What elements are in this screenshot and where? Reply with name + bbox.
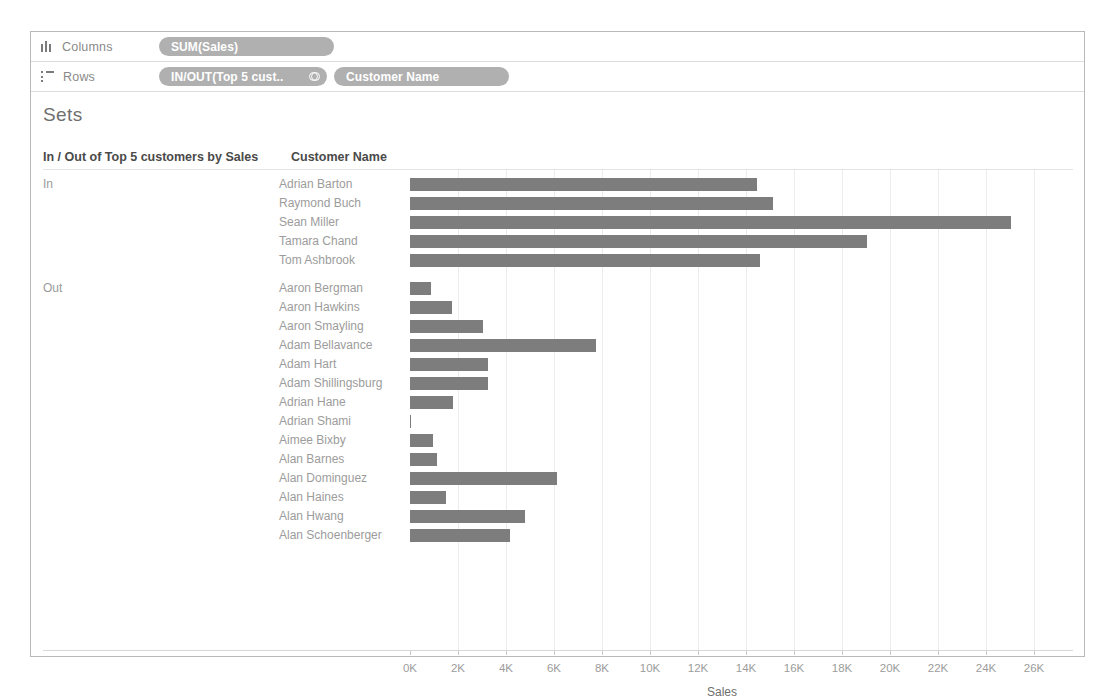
x-tick-label: 2K xyxy=(451,662,465,674)
bar-mark[interactable] xyxy=(410,339,596,352)
tick-mark xyxy=(794,651,795,655)
table-row[interactable]: Alan Schoenberger xyxy=(31,526,1084,545)
bar-mark[interactable] xyxy=(410,254,760,267)
table-row[interactable]: Aaron Smayling xyxy=(31,317,1084,336)
pill-customer-name[interactable]: Customer Name xyxy=(334,67,509,86)
bar-mark[interactable] xyxy=(410,396,453,409)
row-label: Aaron Hawkins xyxy=(279,300,360,314)
table-row[interactable]: Alan Haines xyxy=(31,488,1084,507)
bar-mark[interactable] xyxy=(410,320,483,333)
row-label: Adrian Barton xyxy=(279,177,352,191)
table-row[interactable]: Raymond Buch xyxy=(31,194,1084,213)
columns-shelf[interactable]: Columns SUM(Sales) xyxy=(31,32,1084,62)
plot-clip: InOut Adrian BartonRaymond BuchSean Mill… xyxy=(31,170,1084,651)
table-row[interactable]: Aimee Bixby xyxy=(31,431,1084,450)
row-label: Sean Miller xyxy=(279,215,339,229)
bar-mark[interactable] xyxy=(410,301,452,314)
table-row[interactable]: Alan Dominguez xyxy=(31,469,1084,488)
tick-mark xyxy=(650,651,651,655)
pill-in-out-set-text: IN/OUT(Top 5 cust.. xyxy=(171,70,283,84)
table-row[interactable]: Adam Bellavance xyxy=(31,336,1084,355)
row-label: Raymond Buch xyxy=(279,196,361,210)
axis-clip: 0K2K4K6K8K10K12K14K16K18K20K22K24K26K Sa… xyxy=(31,651,1084,700)
row-label: Alan Schoenberger xyxy=(279,528,382,542)
tick-mark xyxy=(1034,651,1035,655)
x-tick-label: 6K xyxy=(547,662,561,674)
x-tick-label: 26K xyxy=(1024,662,1044,674)
table-row[interactable]: Adrian Hane xyxy=(31,393,1084,412)
x-tick-label: 20K xyxy=(880,662,900,674)
table-row[interactable]: Aaron Hawkins xyxy=(31,298,1084,317)
bar-mark[interactable] xyxy=(410,216,1011,229)
tick-mark xyxy=(890,651,891,655)
rows-shelf-label: Rows xyxy=(31,70,159,84)
x-tick-label: 24K xyxy=(976,662,996,674)
bar-mark[interactable] xyxy=(410,472,557,485)
row-label: Adam Shillingsburg xyxy=(279,376,382,390)
columns-icon xyxy=(41,41,53,52)
x-tick-label: 4K xyxy=(499,662,513,674)
pill-sum-sales[interactable]: SUM(Sales) xyxy=(159,37,334,56)
header-customer-name: Customer Name xyxy=(291,150,387,164)
bar-mark[interactable] xyxy=(410,197,773,210)
x-axis-title: Sales xyxy=(707,685,737,699)
x-tick-label: 8K xyxy=(595,662,609,674)
tick-mark xyxy=(938,651,939,655)
x-tick-label: 16K xyxy=(784,662,804,674)
x-tick-label: 14K xyxy=(736,662,756,674)
row-label: Alan Hwang xyxy=(279,509,344,523)
table-row[interactable]: Adrian Shami xyxy=(31,412,1084,431)
bar-mark[interactable] xyxy=(410,282,431,295)
x-tick-label: 10K xyxy=(640,662,660,674)
table-row[interactable]: Tom Ashbrook xyxy=(31,251,1084,270)
columns-shelf-label: Columns xyxy=(31,40,159,54)
table-row[interactable]: Adam Shillingsburg xyxy=(31,374,1084,393)
row-label: Alan Barnes xyxy=(279,452,344,466)
row-label: Aaron Smayling xyxy=(279,319,364,333)
pill-sum-sales-text: SUM(Sales) xyxy=(171,40,238,54)
row-label: Adrian Hane xyxy=(279,395,346,409)
table-row[interactable]: Adrian Barton xyxy=(31,175,1084,194)
row-label: Alan Dominguez xyxy=(279,471,367,485)
bar-mark[interactable] xyxy=(410,529,510,542)
bar-mark[interactable] xyxy=(410,453,437,466)
x-tick-label: 22K xyxy=(928,662,948,674)
x-tick-label: 18K xyxy=(832,662,852,674)
set-icon xyxy=(309,71,321,83)
bar-mark[interactable] xyxy=(410,434,433,447)
rows-shelf[interactable]: Rows IN/OUT(Top 5 cust.. Customer Name xyxy=(31,62,1084,92)
table-row[interactable]: Alan Barnes xyxy=(31,450,1084,469)
columns-label-text: Columns xyxy=(62,40,113,54)
table-row[interactable]: Alan Hwang xyxy=(31,507,1084,526)
row-label: Tamara Chand xyxy=(279,234,358,248)
row-label: Adam Hart xyxy=(279,357,336,371)
bar-mark[interactable] xyxy=(410,178,757,191)
pill-in-out-set[interactable]: IN/OUT(Top 5 cust.. xyxy=(159,67,327,86)
row-label: Alan Haines xyxy=(279,490,344,504)
bar-mark[interactable] xyxy=(410,358,488,371)
field-headers: In / Out of Top 5 customers by Sales Cus… xyxy=(43,150,1084,167)
x-axis[interactable]: 0K2K4K6K8K10K12K14K16K18K20K22K24K26K Sa… xyxy=(31,651,1084,700)
tableau-viz-window: Columns SUM(Sales) Rows IN/OUT(Top 5 cus… xyxy=(30,31,1085,657)
rows-label-text: Rows xyxy=(63,70,95,84)
row-label: Adrian Shami xyxy=(279,414,351,428)
tick-mark xyxy=(506,651,507,655)
tick-mark xyxy=(602,651,603,655)
bar-mark[interactable] xyxy=(410,377,488,390)
plot-area: InOut Adrian BartonRaymond BuchSean Mill… xyxy=(31,170,1084,651)
table-row[interactable]: Tamara Chand xyxy=(31,232,1084,251)
tick-mark xyxy=(698,651,699,655)
table-row[interactable]: Adam Hart xyxy=(31,355,1084,374)
x-tick-label: 12K xyxy=(688,662,708,674)
bar-mark[interactable] xyxy=(410,491,446,504)
worksheet: Sets In / Out of Top 5 customers by Sale… xyxy=(31,92,1084,657)
bar-mark[interactable] xyxy=(410,235,867,248)
bar-mark[interactable] xyxy=(410,510,525,523)
table-row[interactable]: Aaron Bergman xyxy=(31,279,1084,298)
row-label: Tom Ashbrook xyxy=(279,253,355,267)
table-row[interactable]: Sean Miller xyxy=(31,213,1084,232)
tick-mark xyxy=(986,651,987,655)
bar-mark[interactable] xyxy=(410,415,411,428)
x-tick-label: 0K xyxy=(403,662,417,674)
row-label: Aaron Bergman xyxy=(279,281,363,295)
